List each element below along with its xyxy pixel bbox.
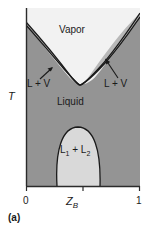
y-axis-label: T [8, 91, 15, 102]
x-tick-label-1: 1 [136, 196, 142, 206]
phase-diagram-figure: T ZB 0 1 Vapor Liquid L + V L + V L1 + L… [0, 0, 149, 231]
x-axis-label: ZB [66, 196, 78, 210]
l1l2-label-sub2: 2 [86, 150, 90, 157]
lv-left-region-label: L + V [27, 79, 50, 89]
x-tick-label-0: 0 [23, 196, 29, 206]
figure-caption: (a) [8, 213, 20, 223]
liquid-region-label: Liquid [57, 97, 84, 107]
x-axis-label-subscript: B [73, 201, 78, 210]
lv-right-region-label: L + V [104, 79, 127, 89]
x-axis-label-main: Z [66, 195, 73, 207]
l1l2-label-plus: + L [69, 144, 86, 155]
l1l2-region-label: L1 + L2 [60, 145, 90, 157]
vapor-region-label: Vapor [59, 25, 85, 35]
